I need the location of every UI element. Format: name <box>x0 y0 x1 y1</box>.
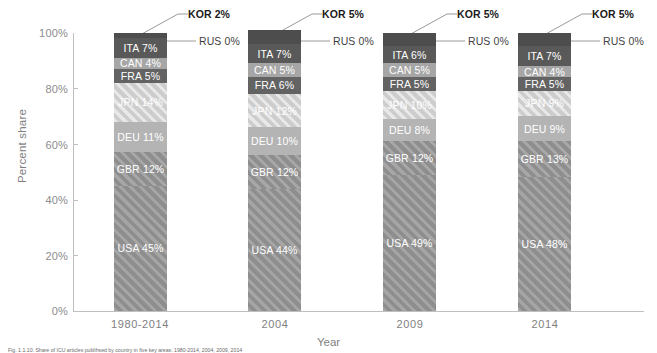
segment-jpn[interactable]: JPN 14% <box>114 83 167 122</box>
x-tick-label-2009: 2009 <box>350 318 470 330</box>
callout-kor-1980-2014: KOR 2% <box>188 8 230 20</box>
segment-can[interactable]: CAN 4% <box>518 66 571 77</box>
y-tick-label-80: 80% <box>26 83 68 95</box>
segment-gbr[interactable]: GBR 12% <box>114 152 167 185</box>
segment-gbr[interactable]: GBR 12% <box>383 141 436 174</box>
segment-usa[interactable]: USA 44% <box>248 189 301 312</box>
bar-2014[interactable]: ITA 7% CAN 4% FRA 5% JPN 9% DEU 9% GBR 1… <box>518 33 571 311</box>
y-axis-tick-20 <box>73 255 78 256</box>
segment-fra[interactable]: FRA 5% <box>518 77 571 91</box>
figure-caption: Fig. 1.1.10. Share of ICU articles publi… <box>8 347 242 353</box>
bar-2004[interactable]: ITA 7% CAN 5% FRA 6% JPN 12% DEU 10% GBR… <box>248 30 301 311</box>
segment-fra[interactable]: FRA 5% <box>383 77 436 91</box>
segment-ita[interactable]: ITA 7% <box>248 44 301 64</box>
segment-can[interactable]: CAN 5% <box>383 63 436 77</box>
segment-gbr[interactable]: GBR 13% <box>518 141 571 177</box>
segment-ita[interactable]: ITA 7% <box>518 46 571 66</box>
segment-deu[interactable]: DEU 8% <box>383 119 436 141</box>
y-axis-tick-60 <box>73 144 78 145</box>
segment-ita[interactable]: ITA 7% <box>114 38 167 58</box>
y-axis-line <box>73 33 74 312</box>
segment-usa[interactable]: USA 49% <box>383 175 436 312</box>
callout-rus-2014: RUS 0% <box>603 35 644 47</box>
segment-can[interactable]: CAN 5% <box>248 63 301 77</box>
x-tick-label-2014: 2014 <box>485 318 605 330</box>
segment-jpn[interactable]: JPN 10% <box>383 91 436 119</box>
y-tick-label-20: 20% <box>26 250 68 262</box>
segment-gbr[interactable]: GBR 12% <box>248 155 301 188</box>
callout-kor-2009: KOR 5% <box>457 8 499 20</box>
segment-jpn[interactable]: JPN 9% <box>518 91 571 116</box>
y-axis-tick-80 <box>73 88 78 89</box>
y-tick-labels: 100% 80% 60% 40% 20% 0% <box>20 0 68 352</box>
segment-usa[interactable]: USA 45% <box>114 186 167 311</box>
y-tick-label-40: 40% <box>26 194 68 206</box>
segment-jpn[interactable]: JPN 12% <box>248 94 301 127</box>
y-tick-label-100: 100% <box>26 27 68 39</box>
segment-kor[interactable] <box>518 33 571 47</box>
segment-kor[interactable] <box>248 30 301 44</box>
bar-2009[interactable]: ITA 6% CAN 5% FRA 5% JPN 10% DEU 8% GBR … <box>383 33 436 311</box>
segment-can[interactable]: CAN 4% <box>114 58 167 69</box>
x-tick-label-2004: 2004 <box>215 318 335 330</box>
x-tick-label-1980-2014: 1980-2014 <box>80 318 200 330</box>
bar-1980-2014[interactable]: ITA 7% CAN 4% FRA 5% JPN 14% DEU 11% GBR… <box>114 33 167 311</box>
callout-rus-1980-2014: RUS 0% <box>199 35 240 47</box>
callout-rus-2009: RUS 0% <box>468 35 509 47</box>
segment-usa[interactable]: USA 48% <box>518 177 571 311</box>
segment-deu[interactable]: DEU 11% <box>114 122 167 153</box>
callout-kor-2014: KOR 5% <box>592 8 634 20</box>
segment-deu[interactable]: DEU 9% <box>518 116 571 141</box>
x-axis-line <box>73 311 644 312</box>
segment-fra[interactable]: FRA 6% <box>248 77 301 94</box>
y-tick-label-60: 60% <box>26 139 68 151</box>
callout-rus-2004: RUS 0% <box>333 35 374 47</box>
segment-kor[interactable] <box>383 33 436 47</box>
callout-kor-2004: KOR 5% <box>322 8 364 20</box>
segment-ita[interactable]: ITA 6% <box>383 46 436 63</box>
y-axis-tick-40 <box>73 200 78 201</box>
segment-fra[interactable]: FRA 5% <box>114 69 167 83</box>
segment-deu[interactable]: DEU 10% <box>248 127 301 155</box>
y-tick-label-0: 0% <box>26 305 68 317</box>
